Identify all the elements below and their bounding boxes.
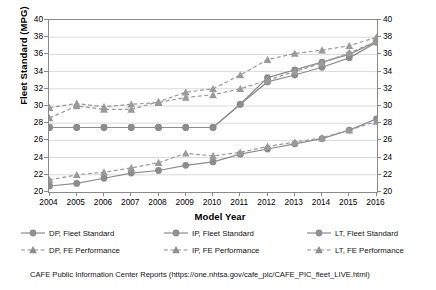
y-tick-right-22: 22 <box>383 169 399 179</box>
x-tick-2016: 2016 <box>361 197 391 207</box>
legend: DP, Fleet StandardIP, Fleet StandardLT, … <box>20 228 420 262</box>
y-tick-left-30: 30 <box>27 100 43 110</box>
series-dp-fleet-standard <box>49 38 377 131</box>
circle-marker <box>182 124 189 131</box>
x-tick-2014: 2014 <box>306 197 336 207</box>
legend-key-triangle-icon <box>20 245 46 255</box>
y-tick-right-40: 40 <box>383 14 399 24</box>
legend-key-triangle-icon <box>163 245 189 255</box>
y-tick-left-28: 28 <box>27 117 43 127</box>
circle-marker <box>182 162 189 169</box>
legend-key-circle-icon <box>306 228 332 238</box>
triangle-marker <box>49 114 53 121</box>
cafe-fleet-chart: Fleet Standard (MPG) FE Performance (MPG… <box>0 0 436 290</box>
y-tick-right-34: 34 <box>383 66 399 76</box>
y-tick-right-38: 38 <box>383 31 399 41</box>
y-tick-left-38: 38 <box>27 31 43 41</box>
circle-marker <box>155 124 162 131</box>
triangle-marker <box>236 71 244 78</box>
circle-marker <box>237 101 244 108</box>
circle-marker <box>128 124 135 131</box>
triangle-marker <box>345 42 353 49</box>
legend-item-ip-fe-performance[interactable]: IP, FE Performance <box>163 245 259 255</box>
triangle-marker <box>73 100 81 107</box>
legend-item-lt-fleet-standard[interactable]: LT, Fleet Standard <box>306 228 398 238</box>
circle-marker <box>30 230 37 237</box>
series-canvas <box>49 20 377 192</box>
circle-marker <box>73 180 80 187</box>
circle-marker <box>210 159 217 166</box>
y-tick-left-32: 32 <box>27 83 43 93</box>
x-tick-2013: 2013 <box>279 197 309 207</box>
y-tick-right-32: 32 <box>383 83 399 93</box>
series-ip-fe-performance <box>49 38 377 111</box>
plot-area <box>48 19 378 193</box>
y-tick-left-36: 36 <box>27 48 43 58</box>
y-tick-left-34: 34 <box>27 66 43 76</box>
legend-label: IP, FE Performance <box>192 246 259 255</box>
circle-marker <box>101 175 108 182</box>
legend-label: DP, Fleet Standard <box>49 229 114 238</box>
legend-item-dp-fe-performance[interactable]: DP, FE Performance <box>20 245 120 255</box>
circle-marker <box>73 124 80 131</box>
y-tick-left-22: 22 <box>27 169 43 179</box>
triangle-marker <box>264 56 272 63</box>
y-tick-right-24: 24 <box>383 152 399 162</box>
x-tick-2006: 2006 <box>88 197 118 207</box>
y-tick-left-26: 26 <box>27 134 43 144</box>
x-tick-2009: 2009 <box>170 197 200 207</box>
legend-item-dp-fleet-standard[interactable]: DP, Fleet Standard <box>20 228 114 238</box>
x-tick-2005: 2005 <box>61 197 91 207</box>
triangle-marker <box>155 159 163 166</box>
legend-key-circle-icon <box>163 228 189 238</box>
legend-key-triangle-icon <box>306 245 332 255</box>
x-tick-2012: 2012 <box>252 197 282 207</box>
y-tick-right-36: 36 <box>383 48 399 58</box>
circle-marker <box>316 230 323 237</box>
y-tick-right-26: 26 <box>383 134 399 144</box>
y-tick-left-20: 20 <box>27 186 43 196</box>
x-tick-2011: 2011 <box>224 197 254 207</box>
legend-label: LT, FE Performance <box>335 246 404 255</box>
y-tick-right-30: 30 <box>383 100 399 110</box>
x-tick-2004: 2004 <box>34 197 64 207</box>
y-tick-left-24: 24 <box>27 152 43 162</box>
y-tick-right-28: 28 <box>383 117 399 127</box>
circle-marker <box>155 167 162 174</box>
legend-label: IP, Fleet Standard <box>192 229 254 238</box>
legend-label: DP, FE Performance <box>49 246 120 255</box>
legend-item-lt-fe-performance[interactable]: LT, FE Performance <box>306 245 404 255</box>
x-tick-2010: 2010 <box>197 197 227 207</box>
triangle-marker <box>182 149 190 156</box>
circle-marker <box>101 124 108 131</box>
x-axis-title: Model Year <box>140 211 300 222</box>
series-dp-fe-performance <box>49 33 377 121</box>
circle-marker <box>49 183 53 190</box>
legend-label: LT, Fleet Standard <box>335 229 398 238</box>
circle-marker <box>173 230 180 237</box>
x-tick-2015: 2015 <box>333 197 363 207</box>
circle-marker <box>210 124 217 131</box>
circle-marker <box>49 124 53 131</box>
y-tick-left-40: 40 <box>27 14 43 24</box>
x-tick-2007: 2007 <box>115 197 145 207</box>
x-tick-2008: 2008 <box>143 197 173 207</box>
legend-item-ip-fleet-standard[interactable]: IP, Fleet Standard <box>163 228 254 238</box>
legend-key-circle-icon <box>20 228 46 238</box>
y-tick-right-20: 20 <box>383 186 399 196</box>
footnote-source: CAFE Public Information Center Reports (… <box>30 270 430 279</box>
